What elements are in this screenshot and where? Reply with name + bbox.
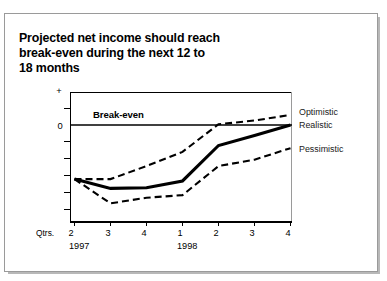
figure-shadow-bottom [8, 272, 380, 274]
figure-shadow-right [378, 17, 380, 274]
page-title: Projected net income should reach break-… [19, 31, 279, 77]
